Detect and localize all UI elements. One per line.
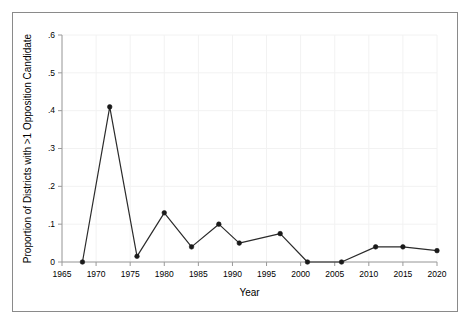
data-point-5[interactable] [217,222,222,227]
y-axis-tick-label-0: 0 [50,257,55,267]
y-axis-tick-label-3: .3 [48,143,55,153]
x-axis-tick-label-9: 2010 [359,269,378,279]
x-axis-tick-label-7: 2000 [291,269,310,279]
data-point-8[interactable] [305,260,310,265]
y-axis-tick-label-1: .1 [48,219,55,229]
data-point-0[interactable] [80,260,85,265]
data-point-12[interactable] [435,248,440,253]
x-axis-tick-label-2: 1975 [121,269,140,279]
y-axis-title: Proportion of Districts with >1 Oppositi… [22,33,33,263]
x-axis-tick-label-6: 1995 [257,269,276,279]
y-axis-tick-label-5: .5 [48,68,55,78]
data-point-6[interactable] [237,241,242,246]
y-axis-tick-label-4: .4 [48,105,55,115]
data-point-2[interactable] [135,254,140,259]
data-point-1[interactable] [107,105,112,110]
data-point-7[interactable] [278,231,283,236]
x-axis-tick-label-5: 1990 [223,269,242,279]
x-axis-tick-label-8: 2005 [325,269,344,279]
data-point-9[interactable] [339,260,344,265]
data-point-10[interactable] [373,245,378,250]
x-axis-tick-label-10: 2015 [393,269,412,279]
x-axis-tick-label-0: 1965 [53,269,72,279]
line-chart: 0.1.2.3.4.5.6196519701975198019851990199… [0,0,470,324]
data-point-4[interactable] [189,245,194,250]
chart-screenshot: 0.1.2.3.4.5.6196519701975198019851990199… [0,0,470,324]
y-axis-tick-label-6: .6 [48,30,55,40]
y-axis-tick-label-2: .2 [48,181,55,191]
x-axis-tick-label-3: 1980 [155,269,174,279]
x-axis-tick-label-4: 1985 [189,269,208,279]
x-axis-tick-label-1: 1970 [87,269,106,279]
x-axis-title: Year [239,287,260,298]
plot-area-wrapper: 0.1.2.3.4.5.6196519701975198019851990199… [0,0,470,324]
x-axis-tick-label-11: 2020 [428,269,447,279]
data-point-3[interactable] [162,211,167,216]
data-point-11[interactable] [401,245,406,250]
